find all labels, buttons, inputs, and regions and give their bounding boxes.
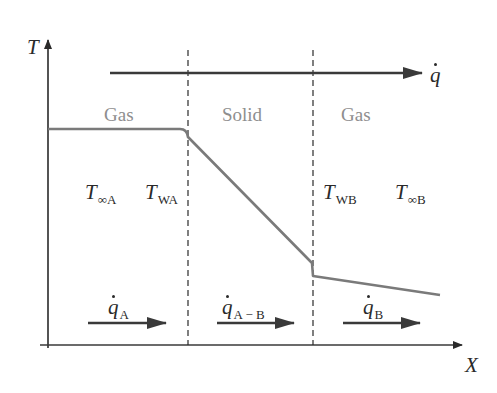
flux-label-b: qB (363, 297, 383, 321)
temp-label-inf-a: T∞A (85, 182, 116, 206)
heat-flow-label: q (430, 65, 441, 86)
x-axis-label: X (465, 355, 478, 376)
region-label-gas-b: Gas (341, 105, 371, 124)
flux-label-ab: qA − B (222, 297, 265, 321)
temp-label-wall-b: TWB (323, 182, 357, 206)
temp-label-wall-a: TWA (145, 182, 178, 206)
region-label-gas-a: Gas (104, 105, 134, 124)
region-label-solid: Solid (222, 105, 262, 124)
temperature-profile-diagram: T X q Gas Solid Gas T∞A TWA TWB T∞B qA q… (0, 0, 497, 393)
y-axis-label: T (27, 37, 39, 58)
temp-label-inf-b: T∞B (395, 182, 426, 206)
temperature-curve (48, 129, 440, 295)
flux-label-a: qA (108, 297, 129, 321)
